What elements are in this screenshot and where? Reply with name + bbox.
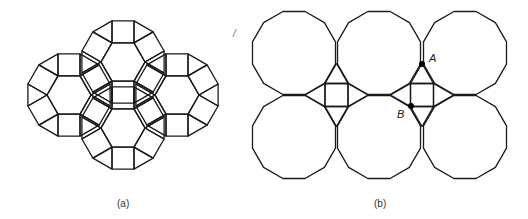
caption-a: (a)	[117, 198, 129, 209]
point-label-a: A	[429, 52, 436, 64]
hexagon	[101, 109, 145, 147]
filler-square	[411, 84, 434, 107]
triangle	[188, 54, 207, 76]
dodecagon	[338, 96, 421, 179]
square	[58, 54, 80, 76]
dodecagon	[253, 96, 336, 179]
triangle	[134, 21, 153, 43]
square	[112, 87, 134, 109]
filler-triangle	[348, 84, 368, 107]
filler-triangle	[325, 64, 348, 84]
tiling-diagram	[0, 0, 528, 219]
caption-b: (b)	[374, 198, 386, 209]
triangle	[93, 147, 112, 169]
figure-b-dodecagons	[253, 12, 507, 179]
triangle	[93, 21, 112, 43]
square	[112, 21, 134, 43]
dodecagon	[424, 96, 507, 179]
square	[166, 54, 188, 76]
triangle	[199, 84, 218, 106]
triangle	[134, 147, 153, 169]
point-label-b: B	[397, 108, 404, 120]
triangle	[188, 114, 207, 136]
square	[112, 81, 134, 103]
dodecagon	[338, 12, 421, 95]
square	[28, 95, 58, 125]
point-b	[408, 103, 414, 109]
filler-triangle	[391, 84, 411, 107]
triangle	[39, 114, 58, 136]
square	[188, 65, 218, 95]
filler-triangle	[325, 107, 348, 127]
filler-square	[325, 84, 348, 107]
hexagon	[155, 76, 199, 114]
square	[112, 147, 134, 169]
filler-triangle	[434, 84, 454, 107]
hexagon	[47, 76, 91, 114]
dodecagon	[253, 12, 336, 95]
filler-triangle	[411, 107, 434, 127]
stray-mark: /	[233, 28, 236, 39]
square	[58, 114, 80, 136]
figure-a-tiling	[28, 21, 218, 169]
triangle	[39, 54, 58, 76]
triangle	[28, 84, 47, 106]
filler-triangle	[305, 84, 325, 107]
square	[166, 114, 188, 136]
point-a	[419, 61, 425, 67]
square	[28, 65, 58, 95]
square	[188, 95, 218, 125]
hexagon	[101, 43, 145, 81]
